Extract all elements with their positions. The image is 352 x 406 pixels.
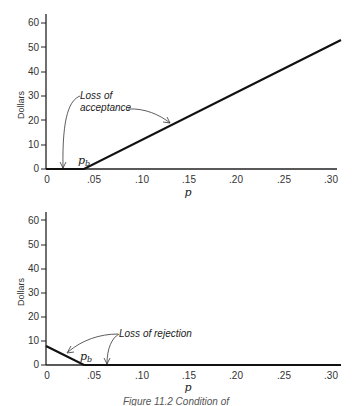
top-y-ticks: 0 10 20 30 40 50 60	[28, 17, 46, 174]
bottom-pb-label: pb	[80, 350, 92, 364]
top-annotation-line2: acceptance	[80, 102, 132, 113]
top-chart: 0 10 20 30 40 50 60 0 .05 .10 .15 .20 .2…	[16, 14, 341, 199]
bottom-xtick-label: .05	[87, 370, 101, 381]
top-ytick-label: 60	[28, 17, 40, 28]
bottom-ytick-label: 30	[28, 287, 40, 298]
top-ytick-label: 0	[33, 163, 39, 174]
top-ytick-label: 30	[28, 90, 40, 101]
top-ytick-label: 50	[28, 42, 40, 53]
annotation-arrow-right	[107, 334, 119, 364]
top-y-axis-label: Dollars	[16, 91, 26, 120]
top-x-axis-label: p	[184, 186, 191, 199]
bottom-ytick-label: 10	[28, 335, 40, 346]
figure: 0 10 20 30 40 50 60 0 .05 .10 .15 .20 .2…	[0, 0, 352, 406]
top-xtick-label: .15	[182, 174, 196, 185]
bottom-y-ticks: 0 10 20 30 40 50 60	[28, 215, 46, 370]
bottom-x-axis-label: p	[184, 381, 191, 394]
top-xtick-label: .05	[87, 174, 101, 185]
top-x-ticks: 0 .05 .10 .15 .20 .25 .30	[44, 174, 338, 185]
bottom-xtick-label: 0	[44, 370, 50, 381]
top-xtick-label: .25	[277, 174, 291, 185]
figure-caption: Figure 11.2 Condition of	[123, 396, 230, 406]
top-ytick-label: 20	[28, 115, 40, 126]
top-ytick-label: 40	[28, 66, 40, 77]
bottom-xtick-label: .30	[324, 370, 338, 381]
bottom-annotation: Loss of rejection	[119, 328, 192, 339]
bottom-ytick-label: 50	[28, 239, 40, 250]
top-xtick-label: .10	[135, 174, 149, 185]
top-xtick-label: .30	[324, 174, 338, 185]
top-ytick-label: 10	[28, 139, 40, 150]
annotation-arrow-right	[128, 109, 170, 123]
bottom-x-ticks: 0 .05 .10 .15 .20 .25 .30	[44, 370, 338, 381]
top-annotation-line1: Loss of	[80, 90, 113, 101]
bottom-ytick-label: 20	[28, 311, 40, 322]
bottom-xtick-label: .15	[182, 370, 196, 381]
bottom-ytick-label: 40	[28, 263, 40, 274]
bottom-y-axis-label: Dollars	[16, 278, 26, 307]
bottom-xtick-label: .10	[135, 370, 149, 381]
bottom-xtick-label: .25	[277, 370, 291, 381]
top-xtick-label: .20	[229, 174, 243, 185]
bottom-xtick-label: .20	[229, 370, 243, 381]
bottom-ytick-label: 60	[28, 215, 40, 226]
top-xtick-label: 0	[44, 174, 50, 185]
bottom-ytick-label: 0	[33, 359, 39, 370]
bottom-chart: 0 10 20 30 40 50 60 0 .05 .10 .15 .20 .2…	[16, 212, 341, 394]
top-pb-label: pb	[78, 154, 90, 168]
